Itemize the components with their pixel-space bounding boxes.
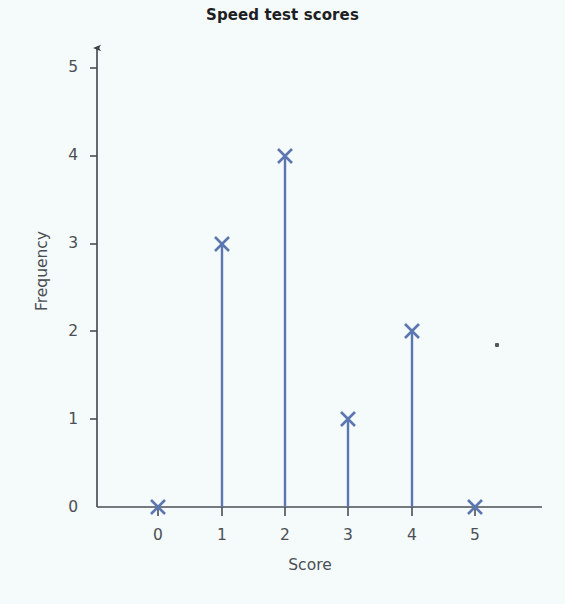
page-speck [495, 343, 499, 347]
data-point-1 [215, 237, 229, 507]
data-point-2 [278, 149, 292, 507]
data-series-frequency [151, 149, 482, 514]
chart-container: Speed test scores Frequency Score 5 4 3 … [0, 0, 565, 604]
plot-area [0, 0, 565, 604]
x-axis-ticks [158, 507, 475, 516]
y-axis-ticks [90, 68, 97, 419]
data-point-3 [341, 412, 355, 507]
data-point-4 [405, 324, 419, 507]
